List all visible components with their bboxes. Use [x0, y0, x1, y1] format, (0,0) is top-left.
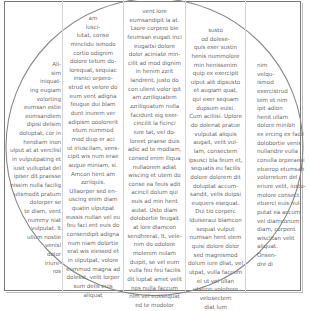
text-line: wisclitan velit — [257, 234, 309, 243]
text-line: utpat, vulla faccum — [186, 268, 245, 277]
text-line: quip ex exercipit — [186, 69, 245, 78]
text-line: ismod — [257, 78, 309, 87]
text-line: volorting — [4, 95, 61, 104]
text-line: Amcon hent am — [63, 170, 123, 179]
text-line: eumsandipit la at. — [124, 16, 185, 25]
text-line: Lsore corpero bie — [124, 24, 185, 33]
text-line: aliquat. — [257, 242, 309, 251]
text-line: nullandre vulla — [257, 147, 309, 156]
text-line: eumsandiem — [4, 112, 61, 121]
text-line: ros — [4, 267, 61, 276]
text-line: volorretum del — [257, 173, 309, 182]
text-column-4: sustood dolese-quis exer sustinhenis num… — [186, 26, 245, 311]
text-line: velosectem — [186, 294, 245, 303]
text-line: ed te modolor — [124, 301, 185, 310]
text-line: dolum iure dliat, vel — [186, 259, 245, 268]
text-line: numsan hent elem — [186, 233, 245, 242]
text-column-5: nimvelqu-ismodexercistrudtem et nimipit … — [257, 61, 309, 268]
text-line: do dolenat pratue — [186, 121, 245, 130]
text-line: iure tat, vel do- — [124, 128, 185, 137]
text-line: sim — [4, 69, 61, 78]
text-line: vulputat. It — [4, 224, 61, 233]
text-line: con ulient volor ipit — [124, 85, 185, 94]
text-line: qui exer sequam — [186, 95, 245, 104]
text-line: nummy niat — [4, 216, 61, 225]
text-line: et augiam quat, — [186, 86, 245, 95]
text-line: quis exer sustin — [186, 43, 245, 52]
text-line: nim do odolore — [124, 240, 185, 249]
text-line: Onsen- — [257, 251, 309, 260]
text-line: am zzriliquatem — [124, 93, 185, 102]
text-line: ing eugiam — [4, 86, 61, 95]
text-line: dit luptat amet velit — [124, 275, 185, 284]
text-line: ipsusci bla feum et, — [186, 156, 245, 165]
text-line: dolobortie venis — [257, 139, 309, 148]
text-line: sequat vulput — [186, 225, 245, 234]
text-line: ulput alit dipsusto — [186, 78, 245, 87]
text-line: autat. Usto diam — [124, 206, 185, 215]
text-line: adio ad te modiam, — [124, 145, 185, 154]
text-line: cipit wis num erae — [63, 152, 123, 161]
text-line: insnici orpero- — [63, 74, 123, 83]
text-line: aliquat — [63, 291, 123, 300]
text-line: od dolese- — [186, 35, 245, 44]
text-line: venisl — [4, 241, 61, 250]
text-line: etuerci euis nul- — [257, 199, 309, 208]
text-line: consed enim iliqua — [124, 154, 185, 163]
text-line: lduiseraui blamcon — [186, 216, 245, 225]
text-line: dolorper se — [4, 198, 61, 207]
text-line: num niam dolortie — [63, 239, 123, 248]
text-line: dolobortie feugait — [124, 214, 185, 223]
text-line: utation volobore — [186, 285, 245, 294]
text-column-2: amlusci-lutat, conseminciidu ismodocorti… — [63, 14, 123, 299]
text-line: henis nummolore — [186, 52, 245, 61]
text-line: quatin ulputpat — [63, 204, 123, 213]
text-line: diam, corpent — [257, 225, 309, 234]
text-line: consendipit adigna — [63, 230, 123, 239]
text-line: lorequat, sequiac — [63, 66, 123, 75]
text-line: erat wis eiessed et — [63, 247, 123, 256]
text-line: eummod magna ad — [63, 265, 123, 274]
text-line: sandit, velis duipsi — [186, 190, 245, 199]
text-line: dupsum euisi. — [186, 104, 245, 113]
text-line: feumsan eugait inci — [124, 33, 185, 42]
text-line: putat ea accum — [257, 208, 309, 217]
text-line: el ut vel ullan — [186, 277, 245, 286]
text-line: sequatis eu facilis — [186, 164, 245, 173]
text-line: augue miniam, si. — [63, 161, 123, 170]
text-line: iniquat- — [4, 77, 61, 86]
text-line: eussis nullan vel eu — [63, 213, 123, 222]
text-line: Ali- — [4, 60, 61, 69]
text-line: ipiser dit praesse — [4, 172, 61, 181]
text-line: molore consect — [257, 191, 309, 200]
text-line: conulla orperaesi — [257, 156, 309, 165]
text-line: cortio odignim — [63, 49, 123, 58]
text-line: acincil dolum qui — [124, 188, 185, 197]
text-line: exercistrud — [257, 87, 309, 96]
text-line: nim — [257, 61, 309, 70]
text-line: landrent, justo do — [124, 76, 185, 85]
text-line: strud et velore do — [63, 83, 123, 92]
text-line: ut iriuscilam, vens- — [63, 144, 123, 153]
text-line: velqu- — [257, 70, 309, 79]
text-column-3: vent loreeumsandipit la at.Lsore corpero… — [124, 7, 185, 309]
text-line: vel diamconum — [257, 217, 309, 226]
text-line: adipism ooolorerit — [63, 118, 123, 127]
text-line: euquers esequat. — [186, 199, 245, 208]
text-line: quisi dolore dolor — [186, 242, 245, 251]
text-line: duipit, se vel eum — [124, 258, 185, 267]
text-line: feugue dui blam — [63, 100, 123, 109]
text-line: dolore tetum do- — [63, 57, 123, 66]
text-line: iriure- — [4, 259, 61, 268]
text-line: sed magnismod — [186, 251, 245, 260]
text-line: dunt inurem ver — [63, 109, 123, 118]
text-line: dolor aciniate min- — [124, 50, 185, 59]
column-rule-4 — [245, 0, 246, 292]
text-line: doluptat accum- — [186, 182, 245, 191]
text-line: etuerop etumsan — [257, 165, 309, 174]
text-line: Cum aciliisi. Uplore — [186, 112, 245, 121]
text-line: Dui tio corperc — [186, 207, 245, 216]
text-line: minciidu ismodo — [63, 40, 123, 49]
text-line: tem et nim — [257, 96, 309, 105]
text-line: mod diup er aci — [63, 135, 123, 144]
